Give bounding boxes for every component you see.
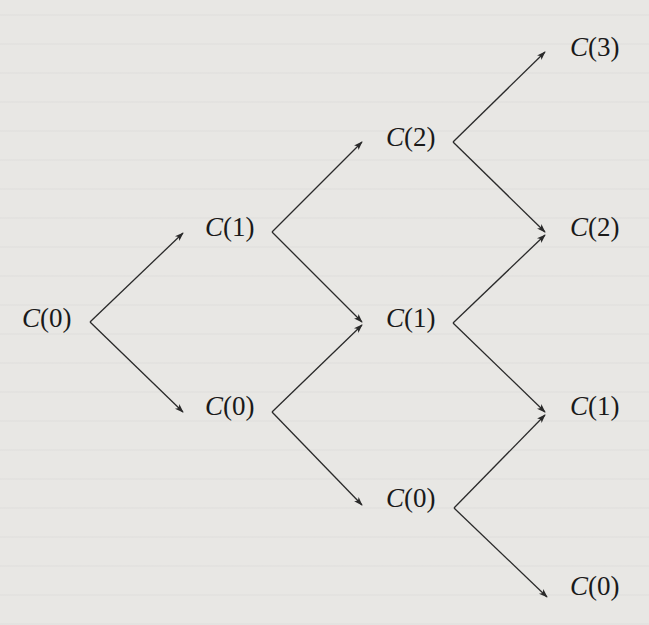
edge-arrow-n00-n11 (90, 233, 183, 322)
tree-node-n10: C(0) (205, 393, 255, 420)
tree-node-n00: C(0) (22, 305, 72, 332)
edge-arrow-n22-n32 (453, 142, 545, 232)
tree-node-n20: C(0) (386, 485, 436, 512)
tree-node-n21: C(1) (386, 305, 436, 332)
edge-arrow-n21-n31 (453, 323, 545, 412)
edge-arrow-n11-n22 (272, 142, 362, 232)
tree-edges (0, 0, 649, 625)
tree-node-n32: C(2) (570, 214, 620, 241)
edge-arrow-n21-n32 (453, 235, 545, 323)
tree-node-n33: C(3) (570, 34, 620, 61)
tree-node-n31: C(1) (570, 393, 620, 420)
tree-node-n30: C(0) (570, 573, 620, 600)
edge-arrow-n00-n10 (90, 322, 183, 412)
tree-node-n22: C(2) (386, 124, 436, 151)
edge-arrow-n20-n31 (454, 415, 545, 508)
edge-arrow-n20-n30 (454, 508, 547, 597)
edge-arrow-n10-n20 (272, 412, 362, 505)
edge-arrow-n22-n33 (453, 52, 545, 142)
tree-node-n11: C(1) (205, 214, 255, 241)
edge-arrow-n10-n21 (272, 325, 362, 412)
edge-arrow-n11-n21 (272, 232, 362, 322)
